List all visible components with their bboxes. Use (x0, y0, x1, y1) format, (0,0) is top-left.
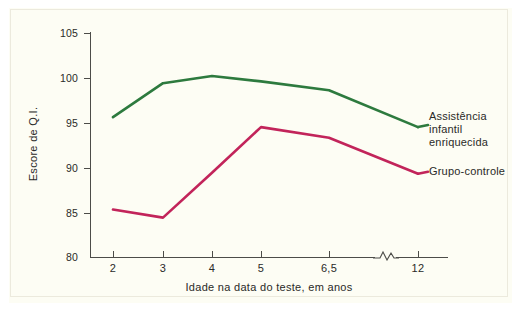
series-line-control (113, 127, 418, 218)
series-line-enriched (113, 76, 418, 127)
series-label-enriched: Assistência infantil enriquecida (429, 110, 488, 149)
leader-line-control (418, 172, 428, 174)
plot-area (0, 0, 520, 312)
leader-line-enriched (418, 125, 428, 127)
chart-figure: 105 100 95 90 85 80 2 3 4 5 6,5 12 Escor… (0, 0, 520, 312)
series-label-control: Grupo-controle (429, 165, 505, 178)
